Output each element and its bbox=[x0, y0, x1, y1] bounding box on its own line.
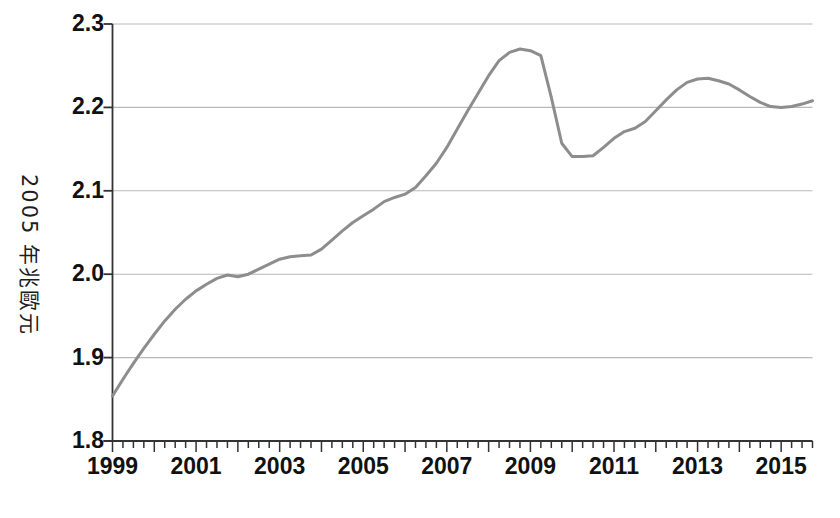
line-chart-plot bbox=[0, 0, 840, 518]
data-series-line bbox=[113, 49, 813, 396]
x-axis-minor-ticks bbox=[113, 441, 813, 452]
y-axis-major-ticks bbox=[104, 24, 113, 441]
chart-container: 2005 年兆歐元 1.81.92.02.12.22.3 19992001200… bbox=[0, 0, 840, 518]
gridlines bbox=[113, 24, 813, 358]
